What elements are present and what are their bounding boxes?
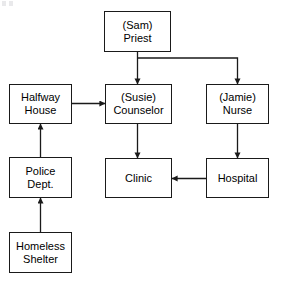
node-counselor-line2: Counselor bbox=[113, 104, 163, 117]
node-homeless-shelter-line1: Homeless bbox=[16, 240, 65, 253]
node-clinic: Clinic bbox=[105, 158, 172, 198]
node-nurse-line2: Nurse bbox=[223, 104, 252, 117]
node-hospital-line1: Hospital bbox=[218, 172, 258, 185]
edge-priest-to-nurse bbox=[138, 58, 238, 84]
node-homeless-shelter-line2: Shelter bbox=[23, 253, 58, 266]
node-halfway-house-line1: Halfway bbox=[21, 91, 60, 104]
node-clinic-line1: Clinic bbox=[125, 172, 152, 185]
node-homeless-shelter: HomelessShelter bbox=[9, 232, 72, 273]
node-priest: (Sam)Priest bbox=[104, 11, 171, 52]
flowchart-diagram: (Sam)PriestHalfwayHouse(Susie)Counselor(… bbox=[0, 0, 290, 281]
node-halfway-house: HalfwayHouse bbox=[9, 84, 72, 124]
node-police-dept-line2: Dept. bbox=[27, 178, 53, 191]
node-hospital: Hospital bbox=[206, 158, 269, 198]
node-nurse: (Jamie)Nurse bbox=[206, 84, 269, 124]
node-priest-line2: Priest bbox=[123, 32, 151, 45]
node-counselor-line1: (Susie) bbox=[121, 91, 156, 104]
node-police-dept-line1: Police bbox=[26, 165, 56, 178]
node-police-dept: PoliceDept. bbox=[9, 157, 72, 198]
scan-artifact bbox=[2, 1, 18, 7]
node-counselor: (Susie)Counselor bbox=[105, 84, 172, 124]
node-priest-line1: (Sam) bbox=[123, 19, 153, 32]
node-halfway-house-line2: House bbox=[25, 104, 57, 117]
node-nurse-line1: (Jamie) bbox=[219, 91, 256, 104]
